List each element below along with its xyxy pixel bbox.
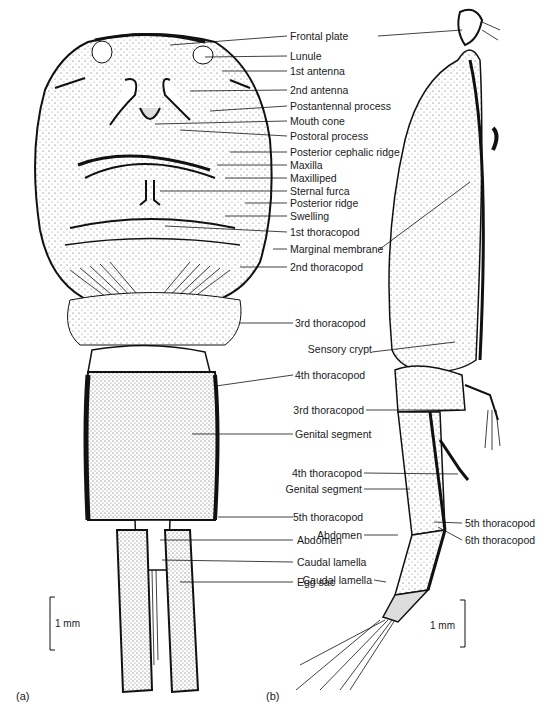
scale-bar-label-a: 1 mm [55, 618, 80, 629]
label-1st-antenna: 1st antenna [290, 65, 345, 77]
label-mouth-cone: Mouth cone [290, 115, 345, 127]
label-lunule: Lunule [290, 50, 322, 62]
label-2nd-antenna: 2nd antenna [290, 84, 348, 96]
label-genital-segment-b: Genital segment [286, 483, 362, 495]
label-posterior-ridge: Posterior ridge [290, 197, 358, 209]
ventral-view-body [35, 34, 272, 692]
label-5th-thoracopod-a: 5th thoracopod [293, 511, 363, 523]
label-sensory-crypt: Sensory crypt [308, 343, 372, 355]
label-swelling: Swelling [290, 210, 329, 222]
label-postoral-process: Postoral process [290, 130, 368, 142]
label-caudal-lamella-b: Caudal lamella [303, 574, 372, 586]
panel-caption-a: (a) [16, 690, 29, 702]
label-sternal-furca: Sternal furca [290, 185, 350, 197]
copepod-anatomy-illustration [0, 0, 548, 714]
panel-caption-b: (b) [266, 690, 279, 702]
label-caudal-lamella-a: Caudal lamella [297, 556, 366, 568]
label-marginal-membrane: Marginal membrane [290, 243, 383, 255]
label-4th-thoracopod-a: 4th thoracopod [295, 369, 365, 381]
label-genital-segment-a: Genital segment [295, 428, 371, 440]
label-6th-thoracopod-b: 6th thoracopod [465, 534, 535, 546]
label-5th-thoracopod-b: 5th thoracopod [465, 517, 535, 529]
label-maxilla: Maxilla [290, 159, 323, 171]
label-maxilliped: Maxilliped [290, 172, 337, 184]
label-2nd-thoracopod: 2nd thoracopod [290, 261, 363, 273]
label-3rd-thoracopod-b: 3rd thoracopod [293, 404, 364, 416]
label-abdomen-b: Abdomen [317, 529, 362, 541]
scale-bar-label-b: 1 mm [430, 620, 455, 631]
label-frontal-plate: Frontal plate [290, 30, 348, 42]
label-3rd-thoracopod-a: 3rd thoracopod [295, 317, 366, 329]
label-1st-thoracopod: 1st thoracopod [290, 226, 359, 238]
label-postantennal-process: Postantennal process [290, 100, 391, 112]
label-4th-thoracopod-b: 4th thoracopod [292, 467, 362, 479]
label-posterior-cephalic-ridge: Posterior cephalic ridge [290, 146, 400, 158]
